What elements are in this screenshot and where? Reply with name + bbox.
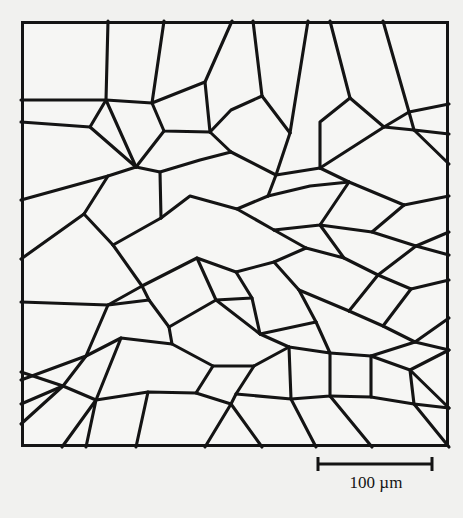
scale-bar bbox=[317, 457, 433, 471]
figure-page: the microstructure of a material with th… bbox=[0, 0, 463, 518]
micrograph-field bbox=[23, 23, 448, 446]
scale-bar-label: 100 µm bbox=[316, 473, 436, 493]
grain-structure-figure bbox=[0, 0, 463, 518]
